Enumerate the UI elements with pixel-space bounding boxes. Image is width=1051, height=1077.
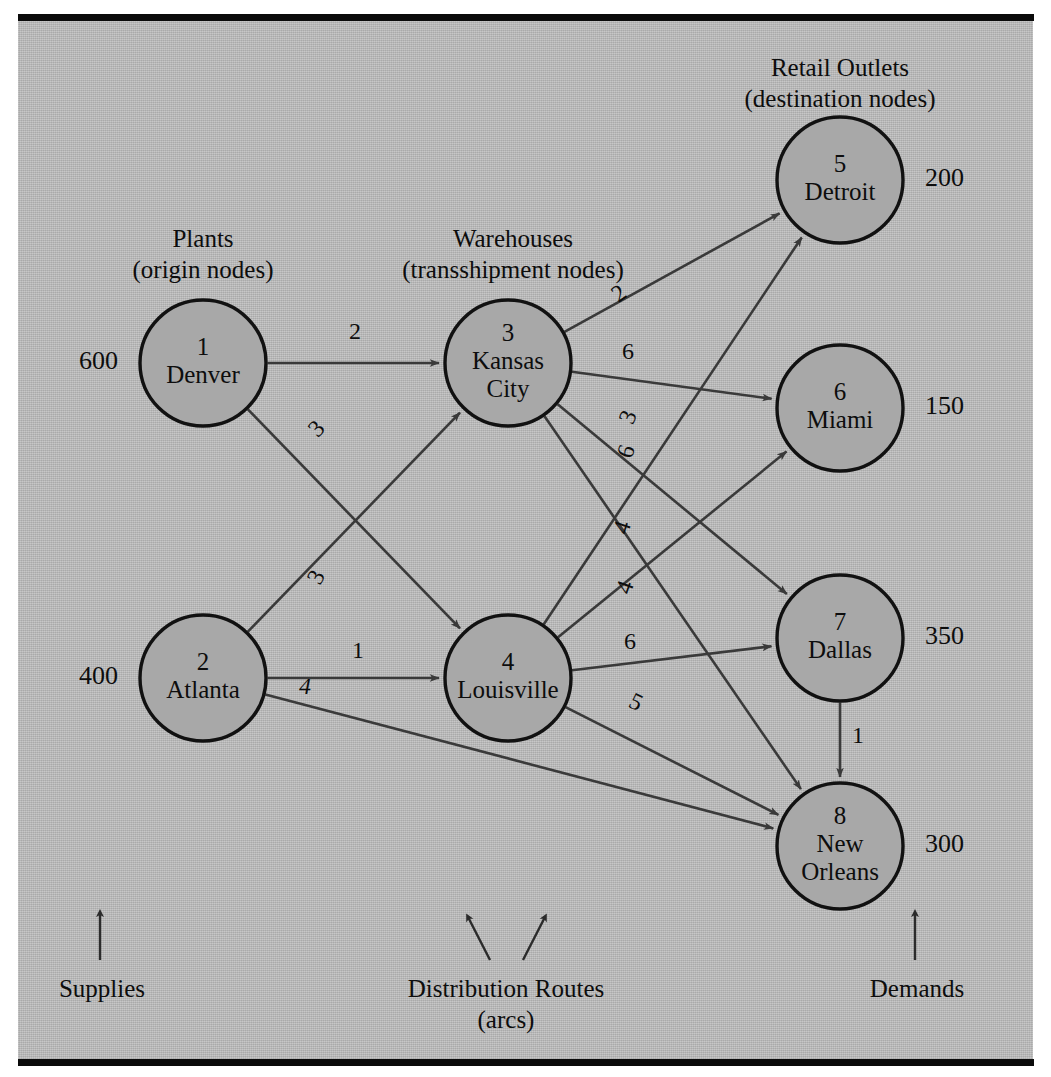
routes-arrow-left: [468, 917, 490, 960]
node-label-8: New: [816, 830, 863, 857]
arc-cost-4-6: 4: [610, 577, 639, 597]
network-diagram: 1Denver6002Atlanta4003KansasCity4Louisvi…: [0, 0, 1051, 1077]
supply-value-2: 400: [79, 661, 118, 690]
demand-value-8: 300: [925, 829, 964, 858]
heading-warehouses-sub: (transshipment nodes): [402, 256, 623, 284]
arc-cost-3-5: 2: [606, 279, 631, 307]
supply-value-1: 600: [79, 346, 118, 375]
arc-cost-3-7: 3: [613, 407, 642, 428]
node-6-miami[interactable]: 6Miami: [777, 345, 903, 471]
arc-cost-2-4: 1: [352, 637, 364, 663]
heading-plants: Plants: [172, 225, 233, 252]
legend-routes: Distribution Routes: [408, 975, 605, 1002]
arc-4-to-6: [558, 452, 786, 638]
demand-value-5: 200: [925, 163, 964, 192]
arc-cost-4-7: 6: [624, 628, 636, 654]
node-number-4: 4: [502, 648, 515, 675]
node-number-8: 8: [834, 802, 847, 829]
heading-plants-sub: (origin nodes): [133, 256, 274, 284]
node-number-6: 6: [834, 378, 847, 405]
routes-arrow-right: [523, 917, 545, 960]
node-label-3: City: [486, 375, 530, 402]
node-number-1: 1: [197, 333, 210, 360]
node-3-kansas-city[interactable]: 3KansasCity: [445, 300, 571, 426]
heading-warehouses: Warehouses: [453, 225, 573, 252]
node-label-6: Miami: [807, 406, 874, 433]
demand-value-7: 350: [925, 621, 964, 650]
arc-cost-1-3: 2: [349, 318, 361, 344]
heading-retail: Retail Outlets: [771, 54, 909, 81]
node-number-3: 3: [502, 319, 515, 346]
node-label-2: Atlanta: [166, 676, 240, 703]
node-8-new-orleans[interactable]: 8NewOrleans: [777, 783, 903, 909]
node-number-5: 5: [834, 150, 847, 177]
node-4-louisville[interactable]: 4Louisville: [445, 615, 571, 741]
node-7-dallas[interactable]: 7Dallas: [777, 575, 903, 701]
arc-cost-3-6: 6: [622, 338, 634, 364]
node-5-detroit[interactable]: 5Detroit: [777, 117, 903, 243]
node-label-1: Denver: [166, 361, 240, 388]
arc-4-to-7: [572, 646, 771, 670]
arc-1-to-4: [248, 409, 460, 628]
arc-cost-4-5: 4: [607, 518, 635, 537]
arc-cost-4-8: 5: [625, 687, 647, 716]
node-label-8: Orleans: [801, 858, 879, 885]
arc-4-to-8: [566, 707, 779, 815]
legend-demands: Demands: [870, 975, 964, 1002]
arc-cost-1-4: 3: [303, 415, 330, 442]
demand-value-6: 150: [925, 391, 964, 420]
arc-2-to-3: [248, 413, 460, 632]
arc-cost-3-8: 6: [611, 442, 639, 461]
arc-4-to-5: [544, 237, 802, 624]
arc-cost-2-3: 3: [301, 565, 330, 588]
node-number-7: 7: [834, 608, 847, 635]
node-label-3: Kansas: [472, 347, 544, 374]
legend-supplies: Supplies: [59, 975, 145, 1002]
arc-cost-7-8: 1: [852, 722, 864, 748]
figure-page: 1Denver6002Atlanta4003KansasCity4Louisvi…: [0, 0, 1051, 1077]
node-1-denver[interactable]: 1Denver: [140, 300, 266, 426]
arc-layer: [248, 213, 840, 828]
node-label-5: Detroit: [805, 178, 876, 205]
heading-retail-sub: (destination nodes): [745, 85, 936, 113]
node-number-2: 2: [197, 648, 210, 675]
node-label-7: Dallas: [808, 636, 872, 663]
legend-routes-sub: (arcs): [478, 1006, 535, 1034]
node-label-4: Louisville: [457, 676, 558, 703]
node-2-atlanta[interactable]: 2Atlanta: [140, 615, 266, 741]
arc-3-to-6: [572, 372, 772, 399]
arc-cost-2-8: 4: [299, 673, 311, 699]
